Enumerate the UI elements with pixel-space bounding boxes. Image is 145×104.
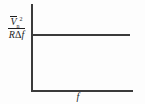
y-axis-label-fraction: Vn2 RΔf (8, 16, 25, 40)
noise-spectral-density-figure: Vn2 RΔf f (0, 0, 145, 104)
x-axis-label: f (70, 92, 86, 102)
y-axis-label-numerator: Vn2 (8, 16, 25, 28)
y-axis-label: Vn2 RΔf (3, 16, 30, 41)
y-axis-line (31, 4, 33, 92)
superscript-2: 2 (20, 16, 23, 22)
data-series-line (32, 34, 130, 36)
frequency-symbol: f (21, 29, 24, 40)
y-axis-label-denominator: RΔf (8, 28, 25, 40)
